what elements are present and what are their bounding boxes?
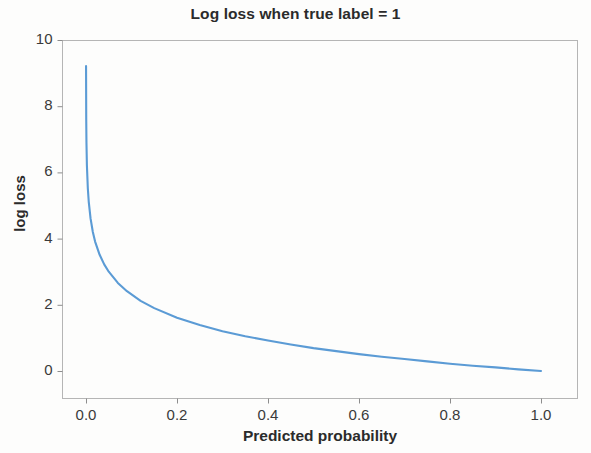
log-loss-curve xyxy=(86,66,541,371)
x-tick-label: 0.2 xyxy=(147,406,207,423)
x-tick-label: 0.8 xyxy=(420,406,480,423)
y-tick-label: 6 xyxy=(13,162,53,179)
chart-figure: Log loss when true label = 1 log loss Pr… xyxy=(0,0,591,453)
y-tick-label: 10 xyxy=(13,30,53,47)
x-axis-ticks xyxy=(87,399,542,404)
plot-area xyxy=(0,0,591,453)
y-axis-ticks xyxy=(58,41,63,372)
x-tick-label: 1.0 xyxy=(511,406,571,423)
plot-frame xyxy=(63,41,578,399)
y-tick-label: 8 xyxy=(13,96,53,113)
y-tick-label: 4 xyxy=(13,229,53,246)
x-tick-label: 0.6 xyxy=(329,406,389,423)
x-tick-label: 0.0 xyxy=(56,406,116,423)
y-tick-label: 2 xyxy=(13,295,53,312)
y-tick-label: 0 xyxy=(13,361,53,378)
x-tick-label: 0.4 xyxy=(238,406,298,423)
